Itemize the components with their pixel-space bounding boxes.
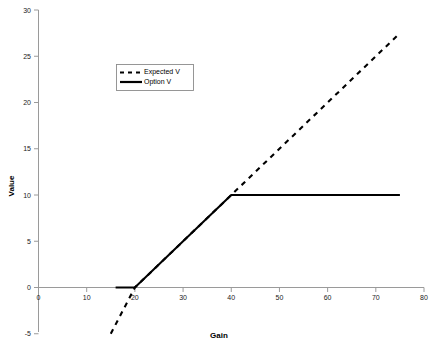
- axis-group: [39, 10, 425, 332]
- y-tick-label: 30: [23, 7, 31, 14]
- y-tick-label: 25: [23, 53, 31, 60]
- line-chart: -5051015202530 01020304050607080 Value G…: [0, 0, 435, 352]
- series-line-option-v: [116, 195, 400, 288]
- x-axis-ticks: 01020304050607080: [37, 288, 428, 301]
- x-tick-label: 10: [83, 294, 91, 301]
- y-axis-ticks: -5051015202530: [23, 7, 38, 338]
- x-axis-title: Gain: [210, 331, 228, 340]
- y-tick-label: 15: [23, 145, 31, 152]
- x-tick-label: 40: [227, 294, 235, 301]
- y-tick-label: 20: [23, 99, 31, 106]
- x-tick-label: 30: [179, 294, 187, 301]
- y-tick-label: 5: [27, 238, 31, 245]
- chart-container: -5051015202530 01020304050607080 Value G…: [0, 0, 435, 352]
- x-tick-label: 50: [276, 294, 284, 301]
- legend: Expected V Option V: [117, 65, 194, 91]
- x-tick-label: 60: [324, 294, 332, 301]
- x-tick-label: 80: [420, 294, 428, 301]
- x-tick-label: 70: [372, 294, 380, 301]
- x-tick-label: 0: [37, 294, 41, 301]
- legend-label-option-v: Option V: [144, 78, 172, 86]
- y-tick-label: -5: [25, 330, 31, 337]
- y-axis-title: Value: [7, 175, 16, 196]
- legend-label-expected-v: Expected V: [144, 68, 180, 76]
- y-tick-label: 10: [23, 192, 31, 199]
- y-tick-label: 0: [27, 284, 31, 291]
